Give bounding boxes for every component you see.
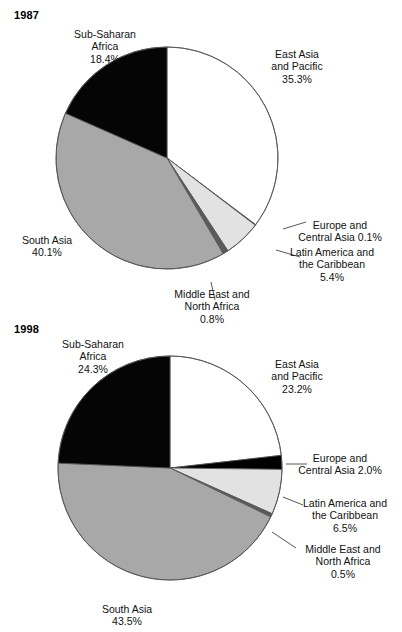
label-europe-and-central-asia-1998: Europe and Central Asia 2.0% [278, 452, 402, 477]
pie-chart-1987: 1987 Sub-Saharan Africa 18.4% East Asia … [0, 0, 402, 316]
label-latin-america-caribbean-1987: Latin America and the Caribbean 5.4% [262, 246, 402, 283]
label-middle-east-north-africa-1998: Middle East and North Africa 0.5% [284, 543, 402, 580]
label-sub-saharan-africa-1998: Sub-Saharan Africa 24.3% [38, 338, 148, 375]
label-south-asia-1987: South Asia 40.1% [2, 234, 92, 259]
label-east-asia-and-pacific-1998: East Asia and Pacific 23.2% [244, 358, 350, 395]
pie-chart-1998: 1998 Sub-Saharan Africa 24.3% East Asia … [0, 316, 402, 632]
label-europe-and-central-asia-1987: Europe and Central Asia 0.1% [278, 219, 402, 244]
label-latin-america-caribbean-1998: Latin America and the Caribbean 6.5% [288, 497, 402, 534]
label-east-asia-and-pacific-1987: East Asia and Pacific 35.3% [244, 48, 350, 85]
label-sub-saharan-africa-1987: Sub-Saharan Africa 18.4% [50, 28, 160, 65]
label-south-asia-1998: South Asia 43.5% [72, 603, 182, 628]
